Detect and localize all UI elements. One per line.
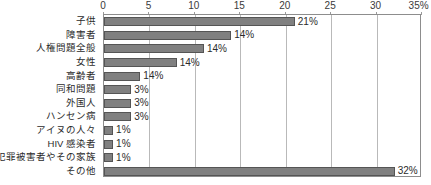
category-label: ハンセン病: [46, 110, 96, 121]
category-label: 同和問題: [56, 83, 96, 94]
bar-row: 21%: [104, 17, 420, 26]
x-tick-label: 15: [234, 0, 245, 12]
bar-value-label: 21%: [295, 17, 318, 27]
bar-value-label: 14%: [231, 30, 254, 40]
x-axis: 05101520253035%: [103, 0, 421, 14]
bar: [104, 167, 395, 176]
bar: [104, 44, 204, 53]
category-label: その他: [66, 165, 96, 176]
bar-value-label: 14%: [140, 71, 163, 81]
bar: [104, 72, 140, 81]
category-label: 外国人: [66, 97, 96, 108]
bar-value-label: 1%: [113, 153, 130, 163]
bar-row: 3%: [104, 99, 420, 108]
bar-row: 3%: [104, 112, 420, 121]
bar: [104, 85, 131, 94]
bar: [104, 99, 131, 108]
category-label: 犯罪被害者やその家族: [0, 151, 96, 162]
bar-row: 32%: [104, 167, 420, 176]
bar-row: 14%: [104, 31, 420, 40]
bar-value-label: 14%: [177, 58, 200, 68]
bar: [104, 112, 131, 121]
bar-row: 14%: [104, 44, 420, 53]
x-tick-label: 30: [370, 0, 381, 12]
x-tick-label: 0: [100, 0, 106, 12]
bar: [104, 126, 113, 135]
bar-value-label: 32%: [395, 166, 418, 176]
bar-value-label: 3%: [131, 112, 148, 122]
category-label: 子供: [76, 15, 96, 26]
category-label: 高齢者: [66, 70, 96, 81]
category-label: HIV 感染者: [48, 138, 96, 149]
x-tick-label: 20: [279, 0, 290, 12]
x-tick-label: 35%: [409, 0, 429, 12]
bar-value-label: 1%: [113, 125, 130, 135]
category-label: アイヌの人々: [36, 124, 96, 135]
bar-rows: 21%14%14%14%14%3%3%3%1%1%1%32%: [104, 15, 420, 176]
category-label: 障害者: [66, 29, 96, 40]
bar-row: 3%: [104, 85, 420, 94]
x-tick-label: 25: [325, 0, 336, 12]
bar: [104, 17, 295, 26]
bar: [104, 140, 113, 149]
x-tick-label: 5: [146, 0, 152, 12]
bar-row: 1%: [104, 153, 420, 162]
bar-row: 1%: [104, 126, 420, 135]
bar-value-label: 1%: [113, 139, 130, 149]
bar-value-label: 3%: [131, 85, 148, 95]
bar: [104, 153, 113, 162]
plot-area: 21%14%14%14%14%3%3%3%1%1%1%32%: [103, 14, 421, 177]
x-tick-label: 10: [188, 0, 199, 12]
bar-row: 1%: [104, 140, 420, 149]
category-axis-labels: 子供障害者人権問題全般女性高齢者同和問題外国人ハンセン病アイヌの人々HIV 感染…: [0, 14, 100, 177]
category-label: 女性: [76, 56, 96, 67]
x-tick-mark: [421, 12, 422, 15]
bar-value-label: 14%: [204, 44, 227, 54]
bar-chart: 05101520253035% 21%14%14%14%14%3%3%3%1%1…: [0, 0, 431, 185]
bar-row: 14%: [104, 58, 420, 67]
bar-row: 14%: [104, 72, 420, 81]
bar: [104, 58, 177, 67]
category-label: 人権問題全般: [36, 42, 96, 53]
bar: [104, 31, 231, 40]
bar-value-label: 3%: [131, 98, 148, 108]
